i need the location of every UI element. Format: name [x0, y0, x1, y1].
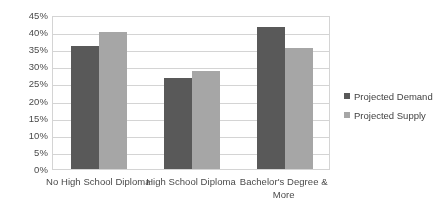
legend-swatch-icon: [344, 93, 350, 99]
bar-demand: [164, 78, 192, 169]
bar-supply: [192, 71, 220, 169]
bar-demand: [257, 27, 285, 169]
x-tick-label: No High School Diploma: [45, 176, 152, 189]
bar-chart: 0%5%10%15%20%25%30%35%40%45% No High Sch…: [0, 0, 439, 214]
bar-demand: [71, 46, 99, 169]
legend-entry[interactable]: Projected Supply: [344, 107, 439, 123]
y-tick-label: 35%: [2, 45, 48, 55]
y-tick-label: 45%: [2, 11, 48, 21]
y-tick-label: 40%: [2, 28, 48, 38]
y-tick-label: 25%: [2, 79, 48, 89]
bar-supply: [285, 48, 313, 169]
y-tick-label: 20%: [2, 97, 48, 107]
x-tick-label: High School Diploma: [138, 176, 245, 189]
x-tick-label: Bachelor's Degree & More: [230, 176, 337, 201]
y-axis: 0%5%10%15%20%25%30%35%40%45%: [0, 0, 48, 214]
plot-area: [52, 16, 330, 170]
bars-layer: [53, 17, 329, 169]
legend-entry[interactable]: Projected Demand: [344, 88, 439, 104]
y-tick-label: 0%: [2, 165, 48, 175]
legend-swatch-icon: [344, 112, 350, 118]
legend-label: Projected Demand: [354, 91, 433, 102]
y-tick-label: 15%: [2, 114, 48, 124]
chart-legend: Projected DemandProjected Supply: [344, 88, 439, 126]
y-tick-label: 30%: [2, 62, 48, 72]
legend-label: Projected Supply: [354, 110, 426, 121]
x-axis: No High School DiplomaHigh School Diplom…: [52, 176, 330, 214]
y-tick-label: 5%: [2, 148, 48, 158]
bar-supply: [99, 32, 127, 169]
y-tick-label: 10%: [2, 131, 48, 141]
